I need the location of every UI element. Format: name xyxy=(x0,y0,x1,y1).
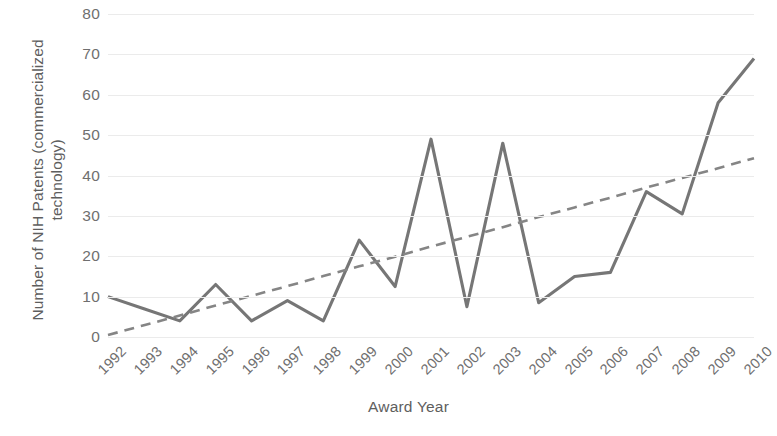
gridline xyxy=(108,256,754,257)
x-tick-label: 2004 xyxy=(518,343,560,385)
x-tick-label: 1997 xyxy=(266,343,308,385)
x-tick-label: 2003 xyxy=(482,343,524,385)
y-tick-label: 10 xyxy=(66,288,100,306)
x-tick-label: 2001 xyxy=(410,343,452,385)
y-tick-label: 50 xyxy=(66,126,100,144)
gridline xyxy=(108,337,754,338)
x-tick-label: 2007 xyxy=(625,343,667,385)
y-tick-label: 40 xyxy=(66,167,100,185)
y-tick-label: 60 xyxy=(66,86,100,104)
x-tick-label: 2008 xyxy=(661,343,703,385)
trendline-series xyxy=(108,158,754,335)
x-tick-label: 2010 xyxy=(733,343,775,385)
y-tick-label: 0 xyxy=(66,328,100,346)
x-tick-label: 2005 xyxy=(553,343,595,385)
gridline xyxy=(108,297,754,298)
x-axis-title: Award Year xyxy=(0,398,777,416)
y-tick-label: 30 xyxy=(66,207,100,225)
x-tick-label: 1994 xyxy=(159,343,201,385)
gridline xyxy=(108,14,754,15)
y-tick-label: 80 xyxy=(66,5,100,23)
x-tick-label: 1993 xyxy=(123,343,165,385)
x-tick-label: 2006 xyxy=(589,343,631,385)
gridline xyxy=(108,95,754,96)
x-tick-label: 1998 xyxy=(302,343,344,385)
x-tick-label: 1995 xyxy=(195,343,237,385)
x-tick-label: 1999 xyxy=(338,343,380,385)
x-tick-label: 1996 xyxy=(230,343,272,385)
y-axis-title-line1: Number of NIH Patents (commercialized xyxy=(29,39,48,320)
patents-line-chart: Number of NIH Patents (commercialized te… xyxy=(0,0,777,436)
y-tick-label: 20 xyxy=(66,247,100,265)
plot-area xyxy=(108,14,754,337)
gridline xyxy=(108,135,754,136)
data-series-line xyxy=(108,58,754,320)
y-axis-tick-labels: 01020304050607080 xyxy=(62,0,100,360)
gridline xyxy=(108,216,754,217)
y-tick-label: 70 xyxy=(66,45,100,63)
x-tick-label: 2009 xyxy=(697,343,739,385)
x-tick-label: 2002 xyxy=(446,343,488,385)
x-axis-tick-labels: 1992199319941995199619971998199920002001… xyxy=(108,339,754,399)
x-tick-label: 2000 xyxy=(374,343,416,385)
gridline xyxy=(108,54,754,55)
gridline xyxy=(108,176,754,177)
